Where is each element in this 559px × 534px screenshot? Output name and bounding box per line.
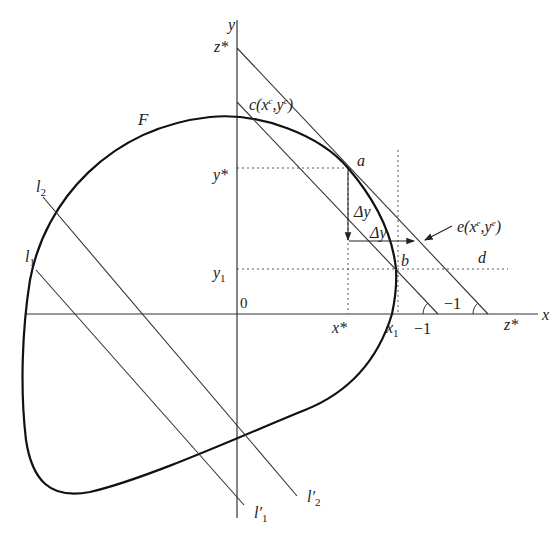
y-star-label: y*	[211, 166, 228, 184]
z-star-y-label: z*	[213, 38, 228, 55]
slope-lines	[36, 48, 488, 505]
line-l2-prime-label: l′2	[307, 488, 320, 508]
angle-arc-outer	[473, 303, 478, 314]
point-a-label: a	[357, 152, 365, 169]
line-l2	[43, 197, 297, 496]
curve-F	[23, 116, 397, 493]
line-l1-label: l1	[25, 248, 35, 268]
point-c-label: c(xc,yc)	[249, 96, 293, 114]
slope-inner-label: −1	[414, 320, 431, 337]
delta-y-vertical-label: Δy	[353, 203, 371, 221]
tangent-line-z-star	[237, 48, 488, 314]
e-pointer-arrow	[425, 226, 452, 240]
point-d-label: d	[478, 249, 487, 266]
tangent-line-c	[237, 102, 438, 314]
line-l2-label: l2	[36, 178, 46, 198]
angle-arc-inner	[423, 303, 428, 314]
y-axis-label: y	[226, 16, 236, 34]
slope-outer-label: −1	[444, 295, 461, 312]
x-axis-label: x	[541, 306, 549, 323]
point-b-label: b	[401, 252, 409, 269]
origin-label: 0	[240, 295, 248, 311]
y1-label: y1	[211, 264, 226, 284]
line-l1-prime-label: l′1	[254, 504, 267, 524]
x1-label: x1	[385, 319, 399, 339]
delta-y-horizontal-label: Δy	[369, 224, 387, 242]
curve-F-label: F	[137, 110, 149, 129]
diagram-canvas: y x 0 F z* y* y1 x* x1 z* −1 −1 c(xc,yc)…	[0, 0, 559, 534]
z-star-x-label: z*	[503, 316, 518, 333]
x-star-label: x*	[331, 319, 347, 336]
point-e-label: e(xe,ye)	[457, 218, 501, 236]
line-l1	[36, 270, 244, 505]
